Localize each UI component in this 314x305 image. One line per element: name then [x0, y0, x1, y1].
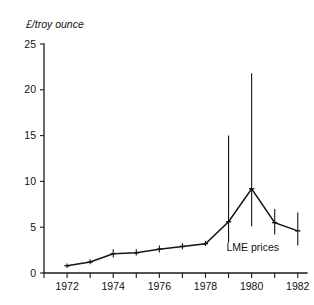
chart-container: 0510152025 197219741976197819801982 £/tr…: [0, 0, 314, 305]
y-tick-label: 5: [30, 221, 36, 233]
annotation-lme-prices: LME prices: [227, 241, 280, 253]
y-tick-label: 20: [24, 83, 36, 95]
series-line-lme-prices: [67, 189, 298, 266]
data-point-markers: [64, 189, 300, 266]
x-tick-label: 1972: [55, 280, 79, 292]
x-tick-label: 1982: [286, 280, 310, 292]
y-tick-label: 25: [24, 38, 36, 50]
y-tick-label: 10: [24, 175, 36, 187]
x-tick-label: 1980: [240, 280, 264, 292]
x-tick-label: 1976: [148, 280, 172, 292]
x-axis-tick-labels: 197219741976197819801982: [55, 280, 309, 292]
axes-group: [44, 44, 307, 273]
x-axis-ticks: [44, 273, 298, 278]
y-axis-title: £/troy ounce: [25, 18, 84, 30]
x-tick-label: 1978: [194, 280, 218, 292]
x-tick-label: 1974: [102, 280, 126, 292]
y-axis-tick-labels: 0510152025: [24, 38, 36, 279]
annotations-group: LME prices: [227, 241, 280, 253]
price-line-chart: 0510152025 197219741976197819801982 £/tr…: [0, 0, 314, 305]
series-group: [67, 189, 298, 266]
y-tick-label: 0: [30, 267, 36, 279]
error-bars-group: [67, 73, 298, 268]
y-tick-label: 15: [24, 129, 36, 141]
